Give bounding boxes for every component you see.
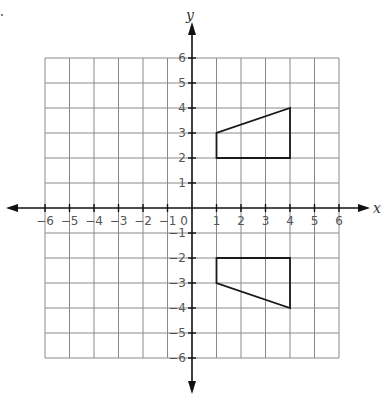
y-tick-label: −4 [168, 301, 186, 315]
y-tick-label: −5 [168, 326, 186, 340]
x-axis-right-arrow-icon [358, 204, 370, 212]
x-axis-left-arrow-icon [6, 204, 18, 212]
y-tick-label: −6 [168, 351, 186, 365]
x-tick-label: 2 [237, 214, 245, 228]
y-axis-up-arrow-icon [188, 22, 196, 35]
x-tick-label: 1 [213, 214, 221, 228]
y-tick-label: −3 [168, 276, 186, 290]
axes [6, 22, 370, 394]
y-tick-label: 4 [178, 101, 186, 115]
y-axis-down-arrow-icon [188, 381, 196, 394]
stray-dot [1, 14, 3, 16]
y-tick-label: 2 [178, 151, 186, 165]
x-tick-label: 4 [286, 214, 294, 228]
x-tick-label: −6 [36, 214, 54, 228]
y-tick-label: −2 [168, 251, 186, 265]
y-tick-label: 3 [178, 126, 186, 140]
y-tick-label: 5 [178, 76, 186, 90]
x-tick-label: 6 [335, 214, 343, 228]
x-axis-label: x [373, 200, 381, 216]
y-tick-label: 6 [178, 51, 186, 65]
x-tick-label: −2 [134, 214, 152, 228]
y-tick-label: −1 [168, 226, 186, 240]
coordinate-plane: −6−5−4−3−2−10123456−6−5−4−3−2−1123456 x … [0, 0, 385, 404]
x-tick-label: −5 [61, 214, 79, 228]
y-axis-label: y [185, 7, 195, 23]
x-tick-label: 3 [262, 214, 270, 228]
x-tick-label: 5 [311, 214, 319, 228]
x-tick-label: −3 [110, 214, 128, 228]
x-tick-label: −4 [85, 214, 103, 228]
y-tick-label: 1 [178, 176, 186, 190]
